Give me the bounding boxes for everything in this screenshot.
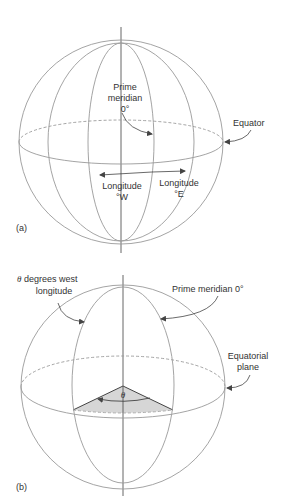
equatorial-plane-label-2: plane	[237, 362, 259, 372]
west-longitude-label-2: longitude	[36, 286, 73, 296]
figure-b: θ θ degrees west longitude Prime meridia…	[16, 274, 268, 496]
longitude-west-label-1: Longitude	[102, 181, 142, 191]
longitude-arrow-west	[100, 172, 152, 175]
prime-meridian-label-1: Prime	[113, 82, 137, 92]
prime-meridian-label-3: 0°	[121, 104, 130, 114]
west-longitude-label-1: θ degrees west	[17, 274, 78, 284]
figure-a: Prime meridian 0° Equator Longitude °W L…	[16, 27, 265, 253]
prime-meridian-arrow-a	[122, 113, 152, 134]
prime-meridian-arrow-b	[161, 296, 218, 319]
longitude-arrow-east	[152, 171, 185, 172]
prime-meridian-label-b: Prime meridian 0°	[172, 284, 244, 294]
theta-symbol: θ	[121, 390, 126, 400]
equator-label: Equator	[233, 118, 265, 128]
equator-arrow-a	[225, 130, 251, 142]
prime-meridian-label-2: meridian	[108, 93, 143, 103]
longitude-east-label-2: °E	[174, 189, 184, 199]
equatorial-plane-label-1: Equatorial	[228, 351, 269, 361]
longitude-west-label-2: °W	[116, 192, 129, 202]
equatorial-plane-arrow	[227, 375, 250, 388]
panel-label-a: (a)	[16, 223, 27, 233]
longitude-east-label-1: Longitude	[159, 178, 199, 188]
globe-diagram: Prime meridian 0° Equator Longitude °W L…	[0, 0, 286, 502]
panel-label-b: (b)	[16, 482, 27, 492]
